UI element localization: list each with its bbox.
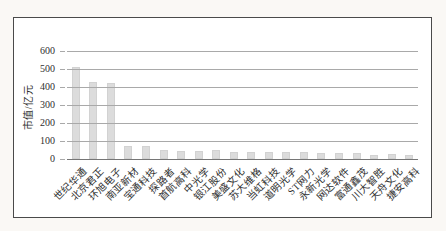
y-tick-label-500: 500 (25, 63, 55, 75)
y-tick-mark-600 (60, 51, 65, 52)
y-tick-mark-100 (60, 141, 65, 142)
y-tick-label-600: 600 (25, 45, 55, 57)
gridline-100 (67, 141, 418, 142)
y-tick-label-300: 300 (25, 99, 55, 111)
y-tick-mark-500 (60, 69, 65, 70)
y-tick-mark-400 (60, 87, 65, 88)
bar-世纪华通 (72, 67, 80, 159)
bar-环旭电子 (107, 83, 115, 159)
y-tick-label-100: 100 (25, 135, 55, 147)
x-axis-tick-labels: 世纪华通北京君正环旭电子南亚新材宝通科技探路者首航高科中光学银江股份美盛文化苏大… (67, 159, 418, 231)
bar-当虹科技 (265, 152, 273, 159)
y-tick-mark-300 (60, 105, 65, 106)
y-tick-mark-0 (60, 159, 65, 160)
x-axis-line (67, 159, 418, 160)
gridline-600 (67, 51, 418, 52)
y-tick-label-0: 0 (25, 153, 55, 165)
chart-frame: 市值/亿元 0100200300400500600 世纪华通北京君正环旭电子南亚… (13, 17, 432, 218)
bar-中光学 (195, 151, 203, 159)
plot-area (67, 51, 418, 159)
bar-探路者 (160, 150, 168, 159)
gridline-400 (67, 87, 418, 88)
gridline-300 (67, 105, 418, 106)
bar-首航高科 (177, 151, 185, 159)
bar-美盛文化 (230, 152, 238, 159)
bar-南亚新材 (124, 146, 132, 160)
gridline-200 (67, 123, 418, 124)
bar-银江股份 (212, 150, 220, 159)
bar-宝通科技 (142, 146, 150, 159)
bar-苏大维格 (247, 152, 255, 159)
y-tick-label-200: 200 (25, 117, 55, 129)
bar-道明光学 (282, 152, 290, 159)
page: 市值/亿元 0100200300400500600 世纪华通北京君正环旭电子南亚… (0, 0, 446, 231)
bar-ST网力 (300, 152, 308, 159)
y-tick-label-400: 400 (25, 81, 55, 93)
gridline-500 (67, 69, 418, 70)
bar-北京君正 (89, 82, 97, 159)
y-tick-mark-200 (60, 123, 65, 124)
